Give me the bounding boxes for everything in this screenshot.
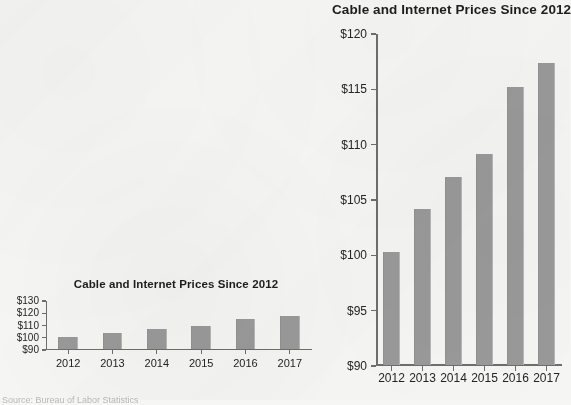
y-tick-110: [371, 144, 376, 145]
chart-cable-internet-prices-small: Cable and Internet Prices Since 2012 $90…: [0, 272, 332, 400]
x-tick-2013: [112, 350, 113, 354]
y-tick-120: [371, 33, 376, 34]
x-tick-2016: [245, 350, 246, 354]
bar-2014: [147, 329, 167, 349]
chart-cable-internet-prices-large: Cable and Internet Prices Since 2012 $90…: [332, 0, 570, 398]
y-axis-label-130: $130: [17, 296, 39, 306]
y-tick-110: [42, 325, 46, 326]
x-axis-label-2013: 2013: [407, 372, 438, 385]
y-axis-label-120: $120: [17, 308, 39, 318]
x-tick-2015: [201, 350, 202, 354]
y-axis-label-95: $95: [347, 305, 367, 317]
chart-small-title: Cable and Internet Prices Since 2012: [26, 277, 326, 291]
y-axis-label-115: $115: [341, 83, 367, 95]
y-tick-90: [42, 349, 46, 350]
y-axis-label-120: $120: [340, 28, 367, 40]
bar-2013: [103, 333, 123, 349]
x-tick-2012: [68, 350, 69, 354]
x-axis-label-2012: 2012: [376, 372, 407, 385]
chart-large-title: Cable and Internet Prices Since 2012: [332, 2, 570, 18]
y-tick-130: [42, 300, 46, 301]
x-axis-label-2013: 2013: [90, 357, 134, 369]
y-tick-90: [371, 365, 376, 366]
x-axis-label-2017: 2017: [531, 372, 562, 385]
x-axis-label-2016: 2016: [500, 372, 531, 385]
x-axis-label-2017: 2017: [268, 357, 312, 369]
x-axis-label-2015: 2015: [179, 357, 223, 369]
x-axis-label-2014: 2014: [438, 372, 469, 385]
bar-2013: [414, 209, 431, 365]
bar-2012: [58, 337, 78, 349]
y-tick-100: [371, 255, 376, 256]
y-tick-120: [42, 313, 46, 314]
bar-2016: [236, 319, 256, 349]
x-axis-label-2016: 2016: [223, 357, 267, 369]
x-tick-2014: [156, 350, 157, 354]
bar-2015: [191, 326, 211, 349]
y-axis-label-90: $90: [22, 345, 39, 355]
bar-2017: [280, 316, 300, 349]
bar-2014: [445, 177, 462, 365]
y-axis-label-90: $90: [347, 360, 367, 372]
chart-large-plot-area: $90$95$100$105$110$115$12020122013201420…: [376, 34, 562, 366]
x-axis-label-2014: 2014: [135, 357, 179, 369]
chart-large-x-axis: [376, 364, 562, 366]
bar-2017: [538, 63, 555, 365]
bar-2016: [507, 87, 524, 365]
y-axis-label-105: $105: [340, 194, 367, 206]
y-tick-95: [371, 310, 376, 311]
chart-large-y-axis: [376, 34, 378, 366]
x-axis-label-2012: 2012: [46, 357, 90, 369]
x-tick-2017: [289, 350, 290, 354]
source-caption: Source: Bureau of Labor Statistics: [2, 395, 139, 405]
y-tick-115: [371, 89, 376, 90]
y-tick-100: [42, 337, 46, 338]
x-axis-label-2015: 2015: [469, 372, 500, 385]
y-axis-label-110: $110: [341, 139, 367, 151]
chart-small-x-axis: [46, 349, 312, 350]
y-axis-label-100: $100: [17, 333, 39, 343]
bar-2012: [383, 252, 400, 365]
chart-small-y-axis: [46, 301, 47, 350]
y-tick-105: [371, 199, 376, 200]
y-axis-label-100: $100: [340, 249, 367, 261]
y-axis-label-110: $110: [17, 321, 39, 331]
chart-small-plot-area: $90$100$110$120$130201220132014201520162…: [46, 301, 312, 350]
bar-2015: [476, 154, 493, 365]
